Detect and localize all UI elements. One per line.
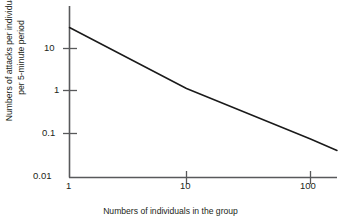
y-axis-title: Numbers of attacks per individual per 5-… xyxy=(4,0,27,138)
x-axis-title-text: Numbers of individuals in the group xyxy=(103,206,238,216)
y-axis-tick-label-0-1: 0.1 xyxy=(42,128,55,138)
plot-area xyxy=(0,0,341,220)
x-axis-tick-label-100: 100 xyxy=(300,181,316,191)
x-axis-tick-label-10: 10 xyxy=(180,181,191,191)
chart-figure: 10 1 0.1 0.01 1 10 100 Numbers of attack… xyxy=(0,0,341,220)
data-series-attack-rate xyxy=(70,28,338,151)
y-axis-tick-label-0-01: 0.01 xyxy=(33,171,52,181)
x-axis-title: Numbers of individuals in the group xyxy=(0,200,341,218)
y-axis-title-line-2: per 5-minute period xyxy=(16,0,28,138)
y-axis-tick-label-1: 1 xyxy=(54,85,59,95)
y-axis-title-line-1: Numbers of attacks per individual xyxy=(4,0,16,138)
x-axis-tick-label-1: 1 xyxy=(66,181,71,191)
y-axis-tick-label-10: 10 xyxy=(44,43,55,53)
